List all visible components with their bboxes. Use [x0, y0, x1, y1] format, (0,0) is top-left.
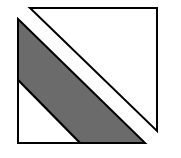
- geometric-diagram: [0, 0, 181, 158]
